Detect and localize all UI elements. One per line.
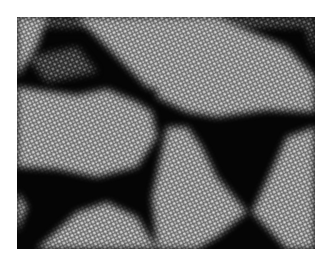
bright-lattice-regions: [17, 17, 315, 249]
micrograph-image: Grayscale microscopy-style texture: brig…: [17, 17, 315, 249]
micrograph-svg: [17, 17, 315, 249]
